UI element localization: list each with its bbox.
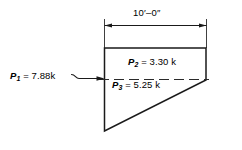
load-value-p2: 3.30 bbox=[150, 56, 169, 67]
load-label-p3: P3 = 5.25 k bbox=[112, 80, 160, 90]
p1-leader-line bbox=[72, 75, 105, 81]
diagram-canvas: 10′–0″ P2 = 3.30 k P3 = 5.25 k P1 = 7.88… bbox=[0, 0, 242, 150]
load-subscript-p1: 1 bbox=[16, 75, 20, 82]
load-subscript-p2: 2 bbox=[134, 61, 138, 68]
load-label-p1: P1 = 7.88k bbox=[10, 71, 55, 81]
dimension-arrow-left-icon bbox=[105, 23, 113, 27]
dimension-label: 10′–0″ bbox=[133, 8, 160, 18]
dimension-line bbox=[105, 23, 207, 27]
load-unit-p1: k bbox=[50, 70, 55, 81]
dimension-arrow-right-icon bbox=[199, 23, 207, 27]
load-label-p2: P2 = 3.30 k bbox=[128, 57, 176, 67]
load-unit-p2: k bbox=[171, 56, 176, 67]
load-subscript-p3: 3 bbox=[118, 84, 122, 91]
p1-leader-arrowhead-icon bbox=[97, 76, 105, 81]
dimension-extension-lines bbox=[105, 19, 207, 48]
load-value-p1: 7.88 bbox=[32, 70, 51, 81]
load-unit-p3: k bbox=[155, 79, 160, 90]
load-value-p3: 5.25 bbox=[134, 79, 153, 90]
